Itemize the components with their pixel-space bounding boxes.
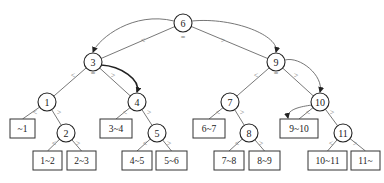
search-path-arrow: [101, 65, 138, 92]
tree-node: 7: [221, 93, 239, 111]
tree-node: 10: [311, 93, 329, 111]
leaf-label: ~1: [18, 124, 28, 134]
node-label: 5: [155, 128, 160, 139]
less-than-label: <: [33, 108, 38, 117]
tree-node: 4: [128, 93, 146, 111]
node-label: 8: [247, 128, 252, 139]
equal-label: =: [181, 33, 186, 42]
less-than-label: <: [254, 71, 259, 80]
greater-than-label: >: [167, 139, 172, 148]
leaf-label: 7~8: [222, 156, 237, 166]
tree-node: 5: [148, 124, 166, 142]
interval-leaf: 2~3: [67, 151, 96, 170]
greater-than-label: >: [294, 71, 299, 80]
tree-node: 9: [267, 53, 285, 71]
interval-leaf: 4~5: [122, 151, 152, 170]
greater-than-label: >: [353, 139, 358, 148]
tree-node: 1: [38, 93, 56, 111]
node-label: 1: [45, 97, 50, 108]
interval-leaf: 3~4: [100, 119, 132, 138]
search-tree-diagram: <=><=><=><=><=><=><=><=><=><=><=> ~11~22…: [0, 0, 384, 183]
node-label: 10: [315, 97, 325, 108]
tree-node: 11: [334, 124, 352, 142]
leaf-label: 1~2: [40, 156, 55, 166]
tree-edge: [101, 27, 174, 59]
greater-than-label: >: [330, 108, 335, 117]
interval-leaf: 9~10: [280, 119, 318, 138]
greater-than-label: >: [76, 139, 81, 148]
less-than-label: <: [141, 36, 146, 45]
node-label: 6: [181, 18, 186, 29]
greater-than-label: >: [147, 108, 152, 117]
interval-leaf: 1~2: [33, 151, 62, 170]
search-path-arrow: [192, 20, 276, 52]
node-label: 9: [274, 57, 279, 68]
leaf-label: 3~4: [109, 124, 124, 134]
leaf-label: 5~6: [164, 156, 179, 166]
interval-leaf: ~1: [10, 119, 35, 138]
node-label: 2: [64, 128, 69, 139]
interval-leaf: 11~: [351, 151, 380, 170]
search-path-arrow: [93, 19, 174, 52]
node-label: 7: [228, 97, 233, 108]
leaf-label: 9~10: [289, 124, 309, 134]
interval-leaf: 5~6: [156, 151, 187, 170]
leaf-label: 2~3: [74, 156, 89, 166]
less-than-label: <: [71, 71, 76, 80]
tree-node: 2: [57, 124, 75, 142]
leaf-label: 8~9: [257, 156, 272, 166]
node-label: 11: [338, 128, 348, 139]
leaf-label: 11~: [358, 156, 372, 166]
search-path-arrow: [285, 59, 320, 92]
tree-node: 3: [84, 53, 102, 71]
leaf-label: 4~5: [130, 156, 145, 166]
interval-leaf: 6~7: [193, 119, 225, 138]
leaf-label: 10~11: [316, 156, 340, 166]
greater-than-label: >: [240, 108, 245, 117]
less-than-label: <: [235, 139, 240, 148]
tree-node: 6: [174, 14, 192, 32]
interval-leaf: 7~8: [214, 151, 244, 170]
leaf-label: 6~7: [202, 124, 217, 134]
less-than-label: <: [52, 139, 57, 148]
greater-than-label: >: [57, 108, 62, 117]
tree-node: 8: [240, 124, 258, 142]
node-label: 3: [91, 57, 96, 68]
less-than-label: <: [216, 108, 221, 117]
less-than-label: <: [329, 139, 334, 148]
less-than-label: <: [143, 139, 148, 148]
less-than-label: <: [123, 108, 128, 117]
less-than-label: <: [306, 108, 311, 117]
greater-than-label: >: [111, 71, 116, 80]
greater-than-label: >: [259, 139, 264, 148]
greater-than-label: >: [221, 36, 226, 45]
interval-leaf: 8~9: [249, 151, 280, 170]
search-path-arrows: [93, 19, 320, 118]
node-label: 4: [135, 97, 140, 108]
interval-leaf: 10~11: [308, 151, 347, 170]
